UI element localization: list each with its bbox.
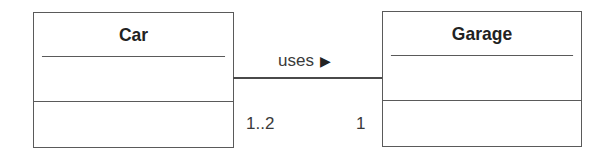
garage-attributes-compartment <box>383 56 581 101</box>
target-multiplicity: 1 <box>356 114 365 134</box>
garage-operations-compartment <box>383 101 581 146</box>
car-attributes-compartment <box>34 57 233 102</box>
association-line <box>233 77 383 79</box>
class-name-garage: Garage <box>391 12 573 56</box>
association-name: uses <box>278 51 314 71</box>
class-name-car: Car <box>42 13 225 57</box>
car-operations-compartment <box>34 102 233 147</box>
class-garage: Garage <box>382 11 582 147</box>
right-triangle-icon: ▶ <box>320 53 331 69</box>
association-label: uses ▶ <box>278 51 331 71</box>
class-car: Car <box>33 12 234 148</box>
source-multiplicity: 1..2 <box>246 114 274 134</box>
